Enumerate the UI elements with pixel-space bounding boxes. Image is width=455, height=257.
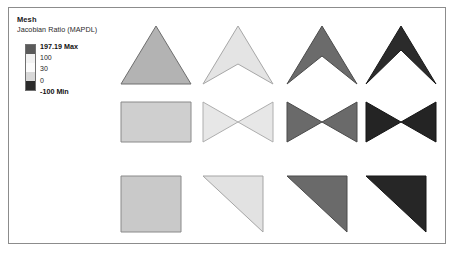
shape-rectangle-good bbox=[119, 100, 193, 144]
legend: Mesh Jacobian Ratio (MAPDL) 197.19 Max10… bbox=[17, 15, 125, 92]
bowtie-dark-polygon bbox=[366, 102, 436, 142]
colorbar-label-3: 0 bbox=[40, 75, 124, 86]
shape-triangle-concave-dark bbox=[364, 24, 438, 86]
legend-subtitle: Jacobian Ratio (MAPDL) bbox=[17, 25, 125, 35]
colorbar-label-2: 30 bbox=[40, 63, 124, 74]
shape-triangle-concave-mid bbox=[285, 24, 359, 86]
square-good-polygon bbox=[121, 176, 181, 232]
triangle-concave-dark-polygon bbox=[366, 26, 436, 84]
shape-square-good bbox=[119, 174, 185, 234]
triangle-concave-mid-polygon bbox=[287, 26, 357, 84]
colorbar-label-4: -100 Min bbox=[40, 86, 124, 97]
right-triangle-mid-polygon bbox=[287, 176, 347, 232]
shape-triangle-good bbox=[119, 24, 193, 86]
colorbar-block: 197.19 Max100300-100 Min bbox=[17, 44, 125, 92]
colorbar-band-3 bbox=[26, 72, 35, 81]
right-triangle-light-polygon bbox=[203, 176, 263, 232]
shape-bowtie-light bbox=[201, 100, 275, 144]
colorbar-band-2 bbox=[26, 63, 35, 72]
colorbar-label-0: 197.19 Max bbox=[40, 41, 124, 52]
right-triangle-dark-polygon bbox=[366, 176, 426, 232]
screenshot-root: Mesh Jacobian Ratio (MAPDL) 197.19 Max10… bbox=[0, 0, 455, 257]
shape-right-triangle-dark bbox=[364, 174, 430, 234]
bowtie-light-polygon bbox=[203, 102, 273, 142]
shape-bowtie-dark bbox=[364, 100, 438, 144]
bowtie-mid-polygon bbox=[287, 102, 357, 142]
rectangle-good-polygon bbox=[121, 102, 191, 142]
shape-right-triangle-mid bbox=[285, 174, 351, 234]
shape-triangle-concave-light bbox=[201, 24, 275, 86]
colorbar-band-1 bbox=[26, 54, 35, 63]
triangle-concave-light-polygon bbox=[203, 26, 273, 84]
triangle-good-polygon bbox=[121, 26, 191, 84]
mesh-legend-panel: Mesh Jacobian Ratio (MAPDL) 197.19 Max10… bbox=[8, 7, 446, 244]
colorbar-band-4 bbox=[26, 81, 35, 90]
legend-title: Mesh bbox=[17, 15, 125, 25]
colorbar-band-0 bbox=[26, 45, 35, 54]
shape-right-triangle-light bbox=[201, 174, 267, 234]
color-scale-bar bbox=[25, 44, 36, 91]
colorbar-label-1: 100 bbox=[40, 52, 124, 63]
color-scale-labels: 197.19 Max100300-100 Min bbox=[40, 41, 124, 97]
element-shape-grid bbox=[119, 24, 441, 240]
shape-bowtie-mid bbox=[285, 100, 359, 144]
